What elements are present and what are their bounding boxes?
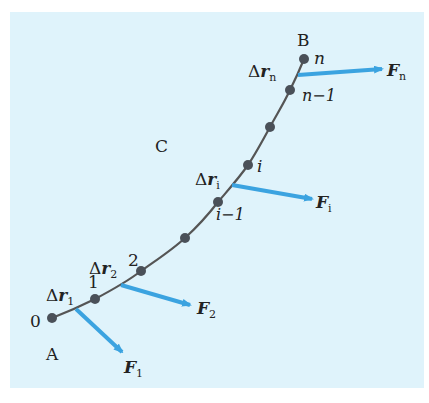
label-point-i-minus-1: i−1	[216, 205, 245, 224]
point-mid-b	[265, 122, 275, 132]
label-B: B	[297, 30, 310, 50]
point-i	[243, 160, 253, 170]
delta-symbol: Δ	[195, 169, 207, 189]
point-1	[90, 294, 100, 304]
label-point-0: 0	[30, 311, 41, 331]
work-along-curve-diagram: A B C 0 1 2 i i−1 n n−1 Δr1 Δr2 Δri Δrn …	[0, 0, 429, 403]
subscript: 2	[110, 268, 117, 281]
label-point-n-minus-1: n−1	[302, 86, 336, 105]
label-point-n: n	[314, 48, 325, 68]
point-n	[299, 54, 309, 64]
subscript: 2	[209, 308, 216, 321]
subscript: n	[269, 71, 276, 84]
label-point-2: 2	[128, 250, 139, 270]
subscript: i	[328, 202, 332, 215]
label-A: A	[45, 344, 59, 364]
subscript: 1	[67, 295, 74, 308]
subscript: n	[399, 70, 406, 83]
point-n-minus-1	[285, 85, 295, 95]
label-C: C	[155, 136, 168, 156]
delta-symbol: Δ	[46, 285, 58, 305]
point-mid-a	[180, 233, 190, 243]
point-0	[47, 313, 57, 323]
delta-symbol: Δ	[248, 61, 260, 81]
subscript: 1	[136, 367, 143, 380]
label-point-i: i	[257, 156, 262, 176]
delta-symbol: Δ	[89, 258, 101, 278]
subscript: i	[216, 179, 220, 192]
